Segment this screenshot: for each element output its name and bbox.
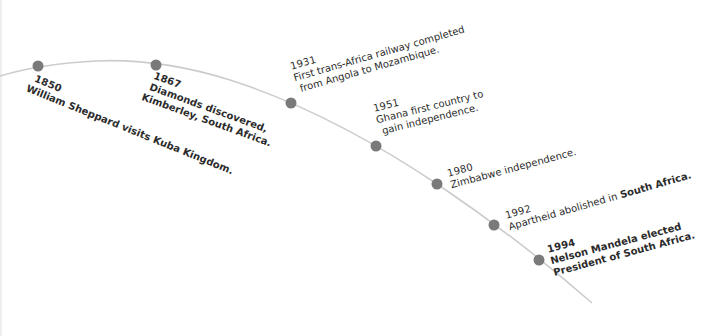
event-dot-1850[interactable]	[33, 61, 44, 72]
event-dot-1951[interactable]	[371, 141, 382, 152]
event-dot-1931[interactable]	[286, 98, 297, 109]
event-dot-1992[interactable]	[489, 220, 500, 231]
event-dot-1980[interactable]	[432, 179, 443, 190]
event-dot-1867[interactable]	[151, 60, 162, 71]
event-dot-1994[interactable]	[534, 255, 545, 266]
